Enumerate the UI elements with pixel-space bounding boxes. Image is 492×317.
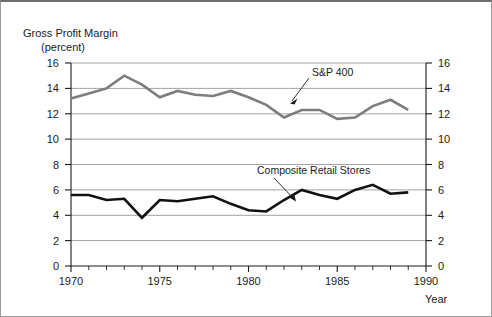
x-tick-label-1980: 1980 — [236, 275, 260, 287]
series-line-sp400 — [71, 76, 408, 119]
y-tick-label-right-6: 6 — [438, 184, 444, 196]
x-tick-label-1985: 1985 — [325, 275, 349, 287]
x-axis-ticks — [71, 266, 426, 272]
leader-line-sp400 — [292, 78, 309, 101]
y-tick-label-left-12: 12 — [47, 108, 59, 120]
chart-canvas: 0246810121416 0246810121416 197019751980… — [1, 2, 492, 317]
y-axis-right-labels: 0246810121416 — [438, 57, 450, 272]
y-tick-label-right-2: 2 — [438, 235, 444, 247]
y-axis-left-labels: 0246810121416 — [47, 57, 59, 272]
y-tick-label-right-0: 0 — [438, 260, 444, 272]
x-axis-labels: 19701975198019851990 — [59, 275, 438, 287]
annotation-composite-retail: Composite Retail Stores — [257, 164, 370, 202]
gridlines — [71, 63, 426, 241]
y-tick-label-right-12: 12 — [438, 108, 450, 120]
y-tick-label-right-4: 4 — [438, 209, 444, 221]
y-tick-label-right-16: 16 — [438, 57, 450, 69]
figure-frame: Gross Profit Margin (percent) — [0, 0, 492, 317]
annotation-label-retail: Composite Retail Stores — [257, 164, 370, 176]
y-axis-right-ticks — [426, 63, 432, 266]
line-chart-svg: 0246810121416 0246810121416 197019751980… — [1, 2, 492, 317]
y-tick-label-left-2: 2 — [53, 235, 59, 247]
y-tick-label-left-4: 4 — [53, 209, 59, 221]
y-tick-label-left-16: 16 — [47, 57, 59, 69]
y-tick-label-left-14: 14 — [47, 82, 59, 94]
y-tick-label-left-8: 8 — [53, 159, 59, 171]
leader-line-retail — [274, 178, 294, 199]
arrow-head-sp400 — [290, 99, 298, 105]
y-tick-label-left-6: 6 — [53, 184, 59, 196]
y-tick-label-left-0: 0 — [53, 260, 59, 272]
x-tick-label-1990: 1990 — [414, 275, 438, 287]
annotation-label-sp400: S&P 400 — [312, 66, 353, 78]
y-tick-label-right-10: 10 — [438, 133, 450, 145]
x-tick-label-1975: 1975 — [148, 275, 172, 287]
x-tick-label-1970: 1970 — [59, 275, 83, 287]
y-axis-left-ticks — [65, 63, 71, 266]
y-tick-label-left-10: 10 — [47, 133, 59, 145]
x-axis-title: Year — [425, 293, 447, 305]
y-tick-label-right-8: 8 — [438, 159, 444, 171]
annotation-sp400: S&P 400 — [290, 66, 353, 105]
y-tick-label-right-14: 14 — [438, 82, 450, 94]
